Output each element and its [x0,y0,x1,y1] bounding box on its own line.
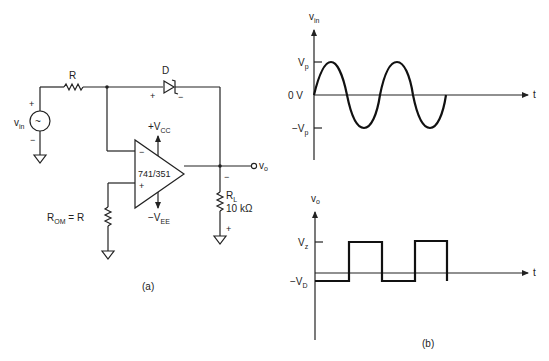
resistor-r-icon [64,84,83,90]
svg-text:t: t [533,89,536,100]
svg-text:−: − [178,92,183,102]
vee-label: −VEE [148,212,170,225]
rl-label: RL [226,190,237,203]
vin-axis-label: vin [309,11,320,24]
resistor-rl-icon [217,192,223,211]
output-terminal [251,163,256,168]
ground-icon [102,251,114,259]
svg-text:−: − [224,172,229,182]
resistor-rom-icon [105,207,111,226]
caption-b: (b) [422,338,434,349]
vcc-label: +VCC [148,121,171,134]
svg-text:−: − [139,147,144,157]
ground-icon [214,236,226,244]
tick-vp: Vp [298,57,309,71]
svg-text:D: D [162,65,169,76]
rom-label: ROM = R [47,212,84,225]
source-minus: − [30,135,35,145]
resistor-r-label: R [69,70,76,81]
vin-label: vin [14,117,25,130]
ground-icon [34,155,46,163]
svg-text:+: + [150,91,155,101]
ac-source: ~ + − vin [14,87,50,163]
svg-text:t: t [533,267,536,278]
zener-diode: D + − [150,65,183,102]
caption-a: (a) [142,281,154,292]
svg-text:+: + [139,181,144,191]
tick-neg-vd: −VD [290,276,308,289]
op-amp-label: 741/351 [138,169,171,179]
rl-value: 10 kΩ [226,203,253,214]
tick-vz: Vz [298,237,309,250]
svg-text:~: ~ [35,116,41,127]
source-plus: + [29,99,34,109]
tick-neg-vp: −Vp [292,123,309,137]
vo-label: vo [259,160,268,172]
svg-text:+: + [226,224,231,234]
zener-limiter-figure: ~ + − vin R D + − − + 7 [0,0,549,361]
input-waveform-plot: vin t Vp 0 V −Vp [288,11,536,160]
output-waveform-plot: vo t Vz −VD (b) [290,193,536,349]
circuit-schematic: ~ + − vin R D + − − + 7 [14,65,268,292]
op-amp: − + 741/351 +VCC −VEE [135,121,184,225]
zener-diode-icon [164,81,174,93]
square-wave [315,241,447,281]
vo-axis-label: vo [311,193,320,205]
tick-zero: 0 V [288,90,303,101]
